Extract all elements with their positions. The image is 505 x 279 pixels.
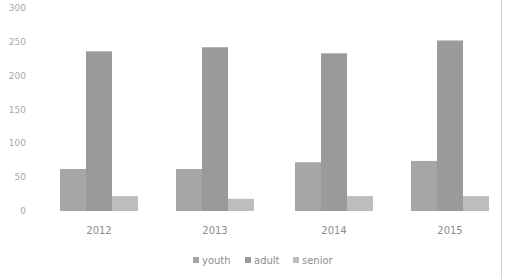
- legend-swatch-adult: [245, 257, 251, 263]
- bar-youth-2014: [295, 162, 321, 211]
- legend: youthadultsenior: [193, 255, 334, 266]
- bar-youth-2012: [60, 169, 86, 211]
- bar-adult-2012: [86, 51, 112, 211]
- x-tick-label: 2014: [321, 225, 346, 236]
- bar-adult-2015: [437, 40, 463, 211]
- bar-senior-2014: [347, 196, 373, 211]
- bar-chart: 050100150200250300 2012201320142015 yout…: [0, 0, 505, 279]
- x-tick-label: 2012: [86, 225, 111, 236]
- right-border: [501, 0, 502, 279]
- y-tick-label: 150: [9, 105, 26, 115]
- bar-adult-2014: [321, 53, 347, 211]
- x-tick-label: 2013: [202, 225, 227, 236]
- legend-label-youth: youth: [202, 255, 231, 266]
- y-tick-label: 50: [15, 172, 27, 182]
- y-tick-label: 300: [9, 3, 26, 13]
- bars: [60, 40, 489, 211]
- y-axis: 050100150200250300: [9, 3, 26, 216]
- legend-swatch-senior: [293, 257, 299, 263]
- bar-senior-2013: [228, 199, 254, 211]
- bar-senior-2012: [112, 196, 138, 211]
- bar-youth-2015: [411, 161, 437, 211]
- bar-youth-2013: [176, 169, 202, 211]
- bar-senior-2015: [463, 196, 489, 211]
- y-tick-label: 250: [9, 37, 26, 47]
- legend-swatch-youth: [193, 257, 199, 263]
- y-tick-label: 200: [9, 71, 26, 81]
- y-tick-label: 100: [9, 138, 26, 148]
- legend-label-adult: adult: [254, 255, 280, 266]
- bar-adult-2013: [202, 47, 228, 211]
- legend-label-senior: senior: [302, 255, 334, 266]
- y-tick-label: 0: [20, 206, 26, 216]
- x-axis: 2012201320142015: [86, 225, 462, 236]
- x-tick-label: 2015: [437, 225, 462, 236]
